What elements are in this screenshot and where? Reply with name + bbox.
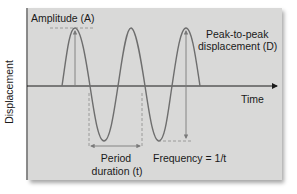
x-axis-label: Time	[241, 93, 264, 105]
sine-wave	[62, 28, 200, 141]
frequency-label: Frequency = 1/t	[153, 152, 226, 164]
y-axis-label: Displacement	[3, 60, 15, 124]
period-label-line1: Period	[95, 152, 137, 164]
peak-to-peak-label-line2: displacement (D)	[198, 40, 277, 52]
peak-to-peak-label-line1: Peak-to-peak	[206, 28, 268, 40]
period-label-line2: duration (t)	[88, 165, 146, 177]
amplitude-label: Amplitude (A)	[31, 12, 95, 24]
